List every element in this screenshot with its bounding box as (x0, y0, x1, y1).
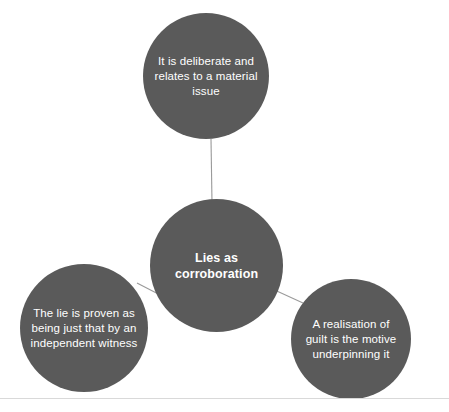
connector-center-to-top (211, 139, 212, 203)
node-lies-as-corroboration[interactable]: Lies as corroboration (150, 199, 283, 332)
node-label-realisation-of-guilt: A realisation of guilt is the motive und… (291, 317, 411, 362)
node-realisation-of-guilt[interactable]: A realisation of guilt is the motive und… (291, 279, 411, 399)
node-label-proven-independent-witness: The lie is proven as being just that by … (20, 306, 148, 351)
diagram-canvas: It is deliberate and relates to a materi… (0, 0, 449, 412)
node-deliberate-material-issue[interactable]: It is deliberate and relates to a materi… (143, 13, 269, 139)
node-label-lies-as-corroboration: Lies as corroboration (150, 250, 283, 282)
node-proven-independent-witness[interactable]: The lie is proven as being just that by … (20, 264, 148, 392)
footer-divider (0, 398, 449, 399)
node-label-deliberate-material-issue: It is deliberate and relates to a materi… (143, 54, 269, 99)
